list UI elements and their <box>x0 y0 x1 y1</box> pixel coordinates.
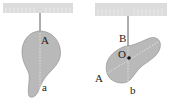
left-panel: A a <box>3 3 73 97</box>
right-panel: B O A b <box>95 3 167 96</box>
right-label-A: A <box>95 72 103 84</box>
right-label-b: b <box>130 84 136 96</box>
left-ceiling <box>3 3 73 13</box>
diagram-canvas: A a B O A b <box>0 0 170 104</box>
center-of-gravity-dot <box>127 56 131 60</box>
right-label-B: B <box>119 32 126 44</box>
left-label-a: a <box>42 81 47 93</box>
right-label-O: O <box>118 48 126 60</box>
right-plate <box>106 37 160 83</box>
left-label-A: A <box>41 34 49 46</box>
gravity-center-diagram: A a B O A b <box>0 0 170 104</box>
